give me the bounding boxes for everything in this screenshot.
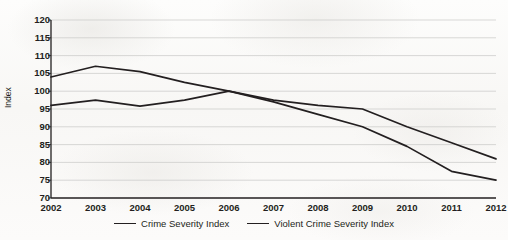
x-tick-label: 2003 bbox=[85, 202, 106, 213]
x-tick-label: 2004 bbox=[129, 202, 150, 213]
x-tick-label: 2002 bbox=[40, 202, 61, 213]
series-lines bbox=[51, 66, 496, 180]
chart-legend: Crime Severity Index Violent Crime Sever… bbox=[0, 218, 508, 229]
legend-item-crime-severity-index: Crime Severity Index bbox=[114, 218, 229, 229]
legend-label: Violent Crime Severity Index bbox=[274, 218, 394, 229]
series-line bbox=[51, 66, 496, 159]
x-tick-label: 2006 bbox=[218, 202, 239, 213]
x-tick-label: 2005 bbox=[174, 202, 195, 213]
legend-label: Crime Severity Index bbox=[141, 218, 229, 229]
legend-item-violent-crime-severity-index: Violent Crime Severity Index bbox=[247, 218, 394, 229]
x-tick-label: 2011 bbox=[441, 202, 462, 213]
x-tick-label: 2007 bbox=[263, 202, 284, 213]
x-tick-label: 2010 bbox=[396, 202, 417, 213]
legend-line-swatch-icon bbox=[247, 223, 269, 224]
x-tick-label: 2012 bbox=[485, 202, 506, 213]
x-tick-label: 2008 bbox=[307, 202, 328, 213]
legend-line-swatch-icon bbox=[114, 223, 136, 224]
line-chart-plot bbox=[0, 0, 508, 240]
x-tick-label: 2009 bbox=[352, 202, 373, 213]
chart-screenshot: Index 707580859095100105110115120 200220… bbox=[0, 0, 508, 240]
gridlines bbox=[51, 20, 496, 198]
